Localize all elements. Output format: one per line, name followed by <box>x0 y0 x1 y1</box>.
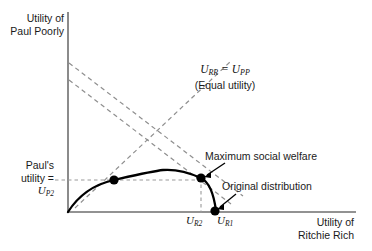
x-tick-ur2-sub: R2 <box>194 219 202 228</box>
paul-utility-line2: utility = <box>0 172 54 185</box>
y-axis-title-line1: Utility of <box>10 12 64 25</box>
equal-utility-annotation: URR = UPP (Equal utility) <box>160 63 290 92</box>
social-welfare-line-lower <box>69 80 231 204</box>
arrowhead-original-distribution <box>217 204 224 210</box>
utility-possibility-frontier <box>68 170 216 212</box>
point-maximum-social-welfare <box>196 173 205 182</box>
x-tick-ur2-symbol: U <box>186 214 194 226</box>
equal-utility-sub-pp: PP <box>240 68 250 77</box>
x-tick-ur1-symbol: U <box>217 214 225 226</box>
paul-utility-line1: Paul's <box>0 159 54 172</box>
x-tick-ur1: UR1 <box>217 214 233 228</box>
x-tick-ur1-sub: R1 <box>225 219 233 228</box>
paul-utility-symbol: UP2 <box>0 184 54 201</box>
paul-utility-label: Paul's utility = UP2 <box>0 159 54 201</box>
x-axis-title: Utility of Ritchie Rich <box>248 216 354 242</box>
figure-canvas: Utility of Paul Poorly Utility of Ritchi… <box>0 0 372 251</box>
equal-utility-u-pp: U <box>232 63 240 75</box>
x-axis-title-line2: Ritchie Rich <box>248 229 354 242</box>
arrow-original-distribution <box>220 194 236 207</box>
arrowhead-maximum-social-welfare <box>204 172 211 178</box>
y-axis-title: Utility of Paul Poorly <box>10 12 64 38</box>
equal-utility-caption: (Equal utility) <box>160 79 290 92</box>
x-tick-ur2: UR2 <box>186 214 202 228</box>
annotation-original-distribution: Original distribution <box>222 180 312 193</box>
annotation-maximum-social-welfare: Maximum social welfare <box>205 150 317 163</box>
equal-utility-sub-rr: RR <box>208 68 218 77</box>
equal-utility-formula: URR = UPP <box>160 63 290 79</box>
paul-utility-symbol-sub: P2 <box>46 189 54 198</box>
paul-utility-symbol-u: U <box>38 184 46 196</box>
x-axis-title-line1: Utility of <box>248 216 354 229</box>
point-equal-utility <box>109 175 118 184</box>
equal-utility-equals: = <box>218 63 232 75</box>
y-axis-title-line2: Paul Poorly <box>10 25 64 38</box>
